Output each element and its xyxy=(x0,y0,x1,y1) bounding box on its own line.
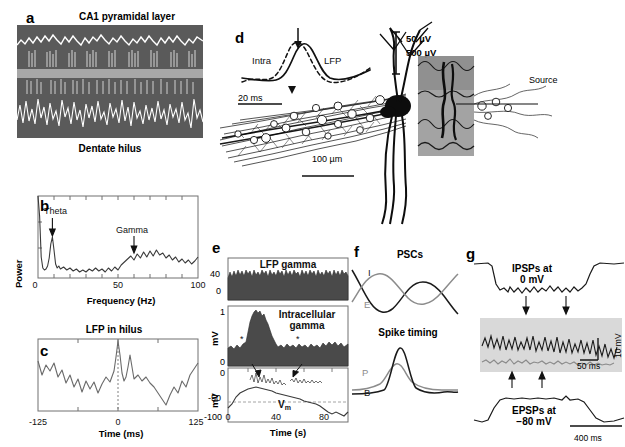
panel-f-bottom-title: Spike timing xyxy=(358,328,458,339)
panel-f-spiketiming-plot: P B xyxy=(352,340,458,398)
panel-c-title: LFP in hilus xyxy=(30,325,198,336)
panel-c-xtick-max: 125 xyxy=(188,417,203,427)
panel-b-xtick-0: 0 xyxy=(32,280,37,290)
panel-c-xlabel: Time (ms) xyxy=(56,429,186,439)
panel-e-sub1-title: LFP gamma xyxy=(228,260,348,271)
panel-e-connector-arrows xyxy=(228,364,348,378)
panel-d-scale-space-label: 100 µm xyxy=(312,155,342,164)
panel-e-xtick-0: 0 xyxy=(225,412,230,422)
panel-g-top-label-1: IPSPs at xyxy=(484,264,580,275)
panel-f-label-B: B xyxy=(364,387,370,398)
panel-e-marker-1: * xyxy=(240,334,244,344)
panel-f-psc-plot: I E xyxy=(352,262,458,320)
panel-f-label-I: I xyxy=(368,267,371,278)
csd-source-box xyxy=(418,56,474,156)
panel-e-xtick-80: 80 xyxy=(319,412,329,422)
panel-e-sub1-ytick-0: 0 xyxy=(216,287,221,296)
panel-g-scale-time-inset: 50 ms xyxy=(577,362,600,371)
panel-b-xtick-50: 50 xyxy=(113,280,123,290)
panel-e-sub2-title-1: Intracellular xyxy=(264,310,350,321)
panel-d: d Intra LFP 20 ms 50 µV 500 µV xyxy=(212,8,625,223)
panel-e-sub3-ylabel: mV xyxy=(210,393,220,408)
panel-g-bottom-label-2: −80 mV xyxy=(486,417,582,428)
panel-d-neuron-morphology xyxy=(220,28,620,224)
panel-a: a CA1 pyramidal layer Dentate hi xyxy=(16,10,206,162)
panel-c-xtick-0: 0 xyxy=(115,417,120,427)
panel-b-xlabel: Frequency (Hz) xyxy=(56,296,186,306)
panel-b-ylabel: Power xyxy=(14,259,24,288)
panel-e-sub3-ytick-100: -100 xyxy=(204,413,222,422)
panel-g-scale-time-main: 400 ms xyxy=(574,434,602,443)
panel-f-letter: f xyxy=(354,244,359,259)
panel-b: Power Theta Gamma 0 50 100 b Frequency (… xyxy=(8,192,208,310)
panel-e-xlabel: Time (s) xyxy=(228,428,348,438)
panel-a-letter: a xyxy=(26,10,34,25)
panel-e-xtick-40: 40 xyxy=(271,412,281,422)
panel-e-letter: e xyxy=(212,240,220,255)
figure-root: a CA1 pyramidal layer Dentate hi xyxy=(0,0,625,447)
panel-f: f PSCs I E Spike timing P B xyxy=(352,240,460,445)
panel-f-label-E: E xyxy=(364,299,370,310)
panel-b-xtick-100: 100 xyxy=(190,280,205,290)
panel-g-top-label-2: 0 mV xyxy=(484,275,580,286)
panel-g: g IPSPs at 0 mV 10 mV 50 ms xyxy=(462,238,625,444)
panel-g-expanded-inset xyxy=(480,318,622,372)
panel-b-annot-gamma: Gamma xyxy=(116,225,148,235)
panel-b-plot: Theta Gamma 0 50 100 xyxy=(30,192,205,290)
panel-f-label-P: P xyxy=(362,367,368,378)
panel-c-letter: c xyxy=(40,343,48,358)
panel-c: LFP in hilus -125 0 125 c Time (ms) xyxy=(8,325,208,443)
panel-e-sub2-title-2: gamma xyxy=(264,321,350,332)
panel-b-letter: b xyxy=(40,198,49,213)
panel-e-sub2-ytick-1: 1 xyxy=(220,308,225,317)
panel-f-top-title: PSCs xyxy=(364,250,456,261)
panel-a-title-top: CA1 pyramidal layer xyxy=(52,12,202,23)
panel-e-sub2-ytick-0: 0 xyxy=(220,358,225,367)
panel-e-sub3-ytick-0: 0 xyxy=(220,369,225,378)
panel-g-scale-voltage: 10 mV xyxy=(614,333,623,358)
panel-g-bottom-label-1: EPSPs at xyxy=(486,406,582,417)
panel-e-sub2-ylabel: mV xyxy=(210,331,220,346)
panel-d-label-source: Source xyxy=(529,76,558,85)
panel-a-recording-image xyxy=(17,25,203,138)
panel-e-marker-2: * xyxy=(296,334,300,344)
panel-c-xtick-min: -125 xyxy=(29,417,47,427)
panel-a-title-bottom: Dentate hilus xyxy=(16,144,204,155)
panel-e: e 40 0 LFP gamma 1 0 mV * * Intracellula… xyxy=(206,238,351,444)
panel-c-plot: -125 0 125 xyxy=(30,337,205,429)
panel-e-sub1-ytick-40: 40 xyxy=(210,270,220,279)
